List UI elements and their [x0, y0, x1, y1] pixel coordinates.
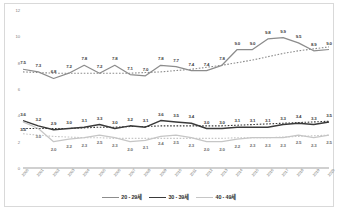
data-label: 2.1 — [143, 145, 149, 150]
x-tick-label: 2019 — [311, 168, 320, 178]
data-label: 9.8 — [265, 29, 271, 34]
x-tick-label: 2016 — [265, 168, 274, 178]
plot-area: 024681012 200020012002200320042005200620… — [23, 10, 329, 168]
y-tick-label: 0 — [18, 166, 20, 171]
x-tick-label: 2018 — [296, 168, 305, 178]
data-label: 7.2 — [97, 64, 103, 69]
y-tick-label: 10 — [16, 34, 20, 39]
data-label: 2.9 — [51, 120, 57, 125]
data-label: 2.3 — [81, 142, 87, 147]
data-label: 2.0 — [204, 146, 210, 151]
data-label: 2.3 — [265, 142, 271, 147]
data-label: 2.5 — [296, 140, 302, 145]
data-label: 2.3 — [189, 142, 195, 147]
data-label: 3.0 — [112, 119, 118, 124]
data-label: 7.8 — [219, 56, 225, 61]
x-tick-label: 2008 — [143, 168, 152, 178]
data-label: 3.6 — [20, 111, 26, 116]
x-tick-label: 2015 — [250, 168, 259, 178]
data-label: 9.9 — [280, 28, 286, 33]
x-tick-label: 2001 — [36, 168, 45, 178]
data-label: 2.2 — [234, 144, 240, 149]
data-label: 7.4 — [189, 61, 195, 66]
data-label: 2.5 — [326, 140, 332, 145]
data-label: 7.8 — [112, 56, 118, 61]
data-label: 3.1 — [234, 118, 240, 123]
data-label: 9.5 — [296, 33, 302, 38]
data-label: 3.3 — [280, 115, 286, 120]
data-label: 2.2 — [66, 144, 72, 149]
legend-line-icon — [196, 197, 213, 198]
data-label: 7.7 — [173, 57, 179, 62]
data-label: 3.6 — [158, 111, 164, 116]
x-tick-label: 2002 — [51, 168, 60, 178]
x-tick-label: 2011 — [189, 168, 198, 177]
y-tick-label: 6 — [18, 87, 20, 92]
data-label: 3.4 — [296, 114, 302, 119]
data-label: 3.1 — [81, 118, 87, 123]
data-label: 2.4 — [158, 141, 164, 146]
y-tick-label: 12 — [16, 8, 20, 13]
data-label: 2.0 — [219, 146, 225, 151]
legend-item-0[interactable]: 20 - 29세 — [102, 193, 142, 201]
x-tick-label: 2009 — [158, 168, 167, 178]
data-label: 2.0 — [127, 146, 133, 151]
data-label: 7.1 — [127, 65, 133, 70]
legend-label: 40 - 49세 — [216, 193, 237, 201]
data-label: 2.5 — [173, 140, 179, 145]
data-label: 2.3 — [112, 142, 118, 147]
data-label: 3.2 — [127, 116, 133, 121]
x-tick-label: 2007 — [128, 168, 137, 178]
data-label: 3.2 — [36, 116, 42, 121]
data-label: 6.8 — [51, 69, 57, 74]
x-tick-label: 2005 — [97, 168, 106, 178]
chart-legend: 20 - 29세30 - 39세40 - 49세 — [5, 193, 333, 201]
legend-line-icon — [149, 197, 166, 198]
data-label: 9.0 — [326, 40, 332, 45]
data-label: 3.5 — [173, 112, 179, 117]
data-label: 2.5 — [97, 140, 103, 145]
chart-container: 024681012 200020012002200320042005200620… — [4, 3, 334, 207]
y-tick-label: 2 — [18, 139, 20, 144]
data-label: 7.3 — [36, 62, 42, 67]
x-tick-label: 2020 — [326, 168, 335, 178]
data-label: 2.3 — [280, 142, 286, 147]
data-label: 7.8 — [158, 56, 164, 61]
data-label: 3.1 — [143, 118, 149, 123]
data-label: 3.0 — [36, 133, 42, 138]
data-label: 3.0 — [219, 119, 225, 124]
legend-item-2[interactable]: 40 - 49세 — [196, 193, 236, 201]
data-label: 7.5 — [20, 60, 26, 65]
x-tick-label: 2003 — [66, 168, 75, 178]
data-label: 3.0 — [66, 119, 72, 124]
data-label: 2.3 — [250, 142, 256, 147]
data-label: 2.3 — [311, 142, 317, 147]
data-label: 7.0 — [143, 66, 149, 71]
data-label: 7.2 — [66, 64, 72, 69]
data-label: 9.0 — [234, 40, 240, 45]
legend-label: 30 - 39세 — [168, 193, 189, 201]
legend-line-icon — [102, 197, 119, 198]
x-tick-label: 2014 — [235, 168, 244, 178]
data-label: 7.4 — [204, 61, 210, 66]
legend-item-1[interactable]: 30 - 39세 — [149, 193, 189, 201]
x-tick-label: 2013 — [219, 168, 228, 178]
data-label: 3.5 — [20, 126, 26, 131]
data-label: 3.5 — [326, 112, 332, 117]
data-label: 7.8 — [81, 56, 87, 61]
x-tick-label: 2017 — [281, 168, 290, 178]
data-label: 3.3 — [97, 115, 103, 120]
data-label: 8.9 — [311, 41, 317, 46]
data-label: 9.0 — [250, 40, 256, 45]
data-label: 3.4 — [189, 114, 195, 119]
legend-label: 20 - 29세 — [121, 193, 142, 201]
x-tick-label: 2012 — [204, 168, 213, 178]
data-label: 3.0 — [204, 119, 210, 124]
x-tick-label: 2006 — [112, 168, 121, 178]
data-label: 2.0 — [51, 146, 57, 151]
x-tick-label: 2004 — [82, 168, 91, 178]
x-tick-label: 2010 — [173, 168, 182, 178]
data-label: 3.1 — [250, 118, 256, 123]
data-label: 3.3 — [311, 115, 317, 120]
x-tick-label: 2000 — [20, 168, 29, 178]
